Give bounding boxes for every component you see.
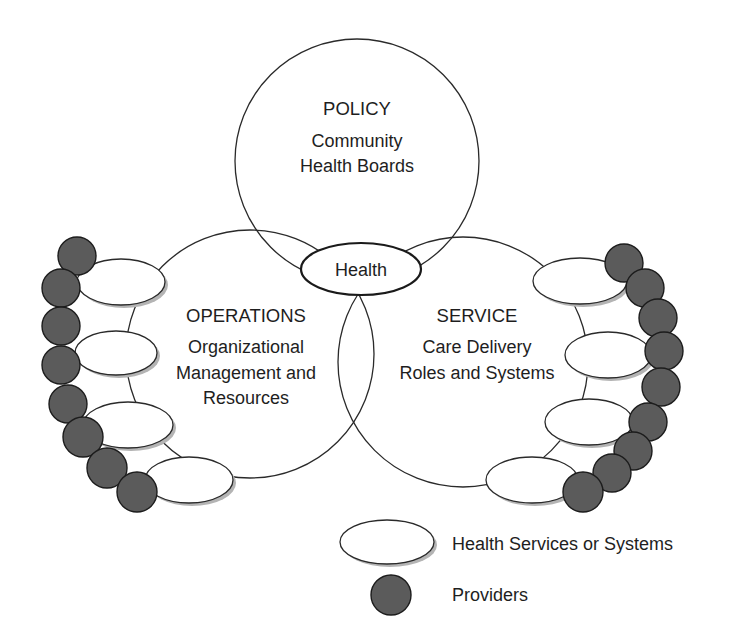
legend: Health Services or Systems Providers bbox=[340, 520, 673, 615]
provider-circle bbox=[42, 307, 80, 345]
operations-labels: OPERATIONS Organizational Management and… bbox=[176, 305, 316, 408]
health-label: Health bbox=[335, 260, 387, 280]
health-service-ellipse bbox=[565, 332, 651, 378]
service-labels: SERVICE Care Delivery Roles and Systems bbox=[399, 305, 554, 383]
service-line-2: Roles and Systems bbox=[399, 363, 554, 383]
operations-title: OPERATIONS bbox=[186, 305, 306, 326]
provider-circle bbox=[563, 472, 603, 512]
policy-title: POLICY bbox=[323, 98, 391, 119]
health-service-ellipse bbox=[145, 457, 233, 503]
provider-circle bbox=[639, 299, 677, 337]
provider-circle bbox=[645, 332, 683, 370]
policy-line-1: Community bbox=[311, 131, 402, 151]
provider-circle bbox=[42, 346, 80, 384]
operations-line-3: Resources bbox=[203, 388, 289, 408]
provider-circle bbox=[117, 472, 157, 512]
legend-services-label: Health Services or Systems bbox=[452, 534, 673, 554]
provider-circle bbox=[642, 368, 680, 406]
policy-labels: POLICY Community Health Boards bbox=[300, 98, 414, 176]
legend-providers-label: Providers bbox=[452, 585, 528, 605]
policy-line-2: Health Boards bbox=[300, 156, 414, 176]
service-title: SERVICE bbox=[437, 305, 518, 326]
health-governance-diagram: Health POLICY Community Health Boards OP… bbox=[0, 0, 745, 641]
operations-line-2: Management and bbox=[176, 363, 316, 383]
legend-providers-icon bbox=[371, 575, 411, 615]
provider-circle bbox=[42, 269, 80, 307]
health-center: Health bbox=[301, 243, 421, 295]
service-line-1: Care Delivery bbox=[422, 337, 531, 357]
operations-line-1: Organizational bbox=[188, 337, 304, 357]
legend-services-icon bbox=[340, 520, 434, 564]
health-service-ellipse bbox=[75, 331, 157, 375]
